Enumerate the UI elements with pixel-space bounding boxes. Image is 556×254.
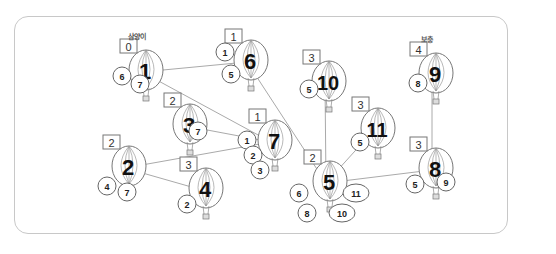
box-label-value: 3	[185, 159, 191, 171]
balloon-8[interactable]: 8359	[406, 137, 455, 199]
basket-icon	[375, 154, 381, 159]
balloon-1[interactable]: 1067	[113, 39, 163, 101]
circle-badge-value: 10	[337, 209, 347, 219]
circle-badge-value: 5	[306, 85, 311, 95]
circle-badge-value: 8	[304, 209, 309, 219]
basket-icon	[433, 99, 439, 104]
basket-icon	[203, 214, 209, 219]
circle-badge-value: 2	[184, 200, 189, 210]
balloon-7[interactable]: 71123	[238, 109, 292, 179]
balloon-number: 6	[244, 49, 256, 74]
circle-badge-value: 5	[228, 70, 233, 80]
basket-icon	[187, 150, 193, 155]
box-label-value: 1	[230, 31, 236, 43]
circle-badge-value: 5	[412, 180, 417, 190]
box-label-value: 3	[415, 139, 421, 151]
balloon-5[interactable]: 52611810	[290, 150, 369, 222]
circle-badge-value: 7	[137, 80, 142, 90]
circle-badge-value: 11	[351, 189, 361, 199]
box-label-value: 2	[169, 95, 175, 107]
basket-icon	[143, 96, 149, 101]
basket-icon	[272, 166, 278, 171]
balloon-graph: 1067611510359483277112311352247432526118…	[0, 0, 556, 254]
basket-icon	[248, 86, 254, 91]
basket-icon	[326, 107, 332, 112]
circle-badge-value: 7	[195, 127, 200, 137]
balloon-3[interactable]: 327	[164, 93, 207, 155]
circle-badge-value: 8	[415, 79, 420, 89]
circle-badge-value: 9	[443, 178, 448, 188]
circle-badge-value: 2	[250, 151, 255, 161]
balloon-top-label: 삼양이	[128, 32, 146, 41]
balloon-number: 9	[429, 62, 441, 87]
box-label-value: 2	[108, 137, 114, 149]
circle-badge-value: 1	[244, 136, 249, 146]
circle-badge-value: 4	[104, 182, 109, 192]
circle-badge-value: 6	[296, 189, 301, 199]
balloon-9[interactable]: 948	[409, 42, 453, 104]
basket-icon	[433, 194, 439, 199]
balloon-top-label: 보충	[421, 35, 434, 44]
box-label-value: 1	[254, 111, 260, 123]
balloon-10[interactable]: 1035	[300, 50, 346, 112]
circle-badge-value: 7	[124, 188, 129, 198]
circle-badge-value: 3	[257, 166, 262, 176]
balloon-number: 5	[323, 170, 335, 195]
balloon-number: 7	[268, 129, 280, 154]
balloon-number: 4	[199, 177, 212, 202]
balloon-4[interactable]: 432	[178, 157, 223, 219]
balloon-number: 2	[122, 155, 134, 180]
box-label-value: 3	[357, 99, 363, 111]
balloon-2[interactable]: 2247	[98, 135, 146, 201]
box-label-value: 3	[308, 52, 314, 64]
circle-badge-value: 1	[222, 48, 227, 58]
balloon-11[interactable]: 1135	[351, 97, 395, 159]
circle-badge-value: 6	[119, 72, 124, 82]
box-label-value: 0	[125, 41, 131, 53]
circle-badge-value: 5	[357, 138, 362, 148]
box-label-value: 2	[309, 152, 315, 164]
balloon-number: 10	[317, 72, 339, 94]
balloon-number: 11	[366, 119, 387, 141]
box-label-value: 4	[415, 44, 421, 56]
